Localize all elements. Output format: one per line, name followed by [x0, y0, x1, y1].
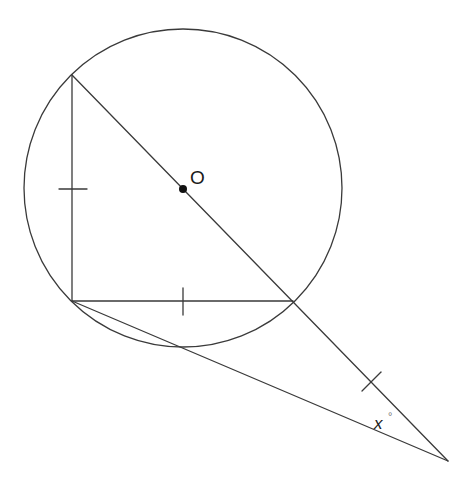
secant-line: [72, 301, 448, 461]
angle-label-x: x: [373, 414, 383, 433]
degree-symbol: °: [388, 410, 392, 422]
diameter-extended-line: [72, 75, 448, 461]
segments-group: [72, 75, 448, 461]
center-point-o: [179, 185, 187, 193]
equal-length-tick-marks: [59, 189, 381, 391]
center-label-o: O: [190, 167, 205, 188]
geometry-figure: O x °: [0, 0, 462, 481]
